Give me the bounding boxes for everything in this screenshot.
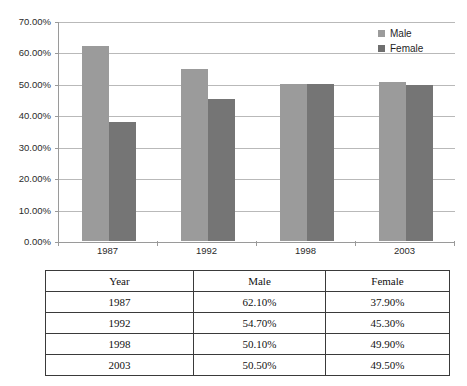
table-row: 199850.10%49.90% (46, 334, 450, 355)
y-tick-mark (55, 148, 59, 149)
legend-swatch-female-icon (378, 45, 385, 52)
table-body: 198762.10%37.90%199254.70%45.30%199850.1… (46, 292, 450, 376)
x-tick-label-1992: 1992 (167, 246, 247, 256)
bar-male-2003 (379, 82, 406, 241)
table-header-year: Year (46, 271, 194, 292)
y-tick-mark (55, 22, 59, 23)
legend-label-male: Male (390, 29, 434, 39)
table-header-female: Female (326, 271, 450, 292)
y-tick-mark (55, 116, 59, 117)
bar-female-1987 (109, 122, 136, 241)
legend-item-female: Female (340, 41, 452, 56)
y-tick-mark (55, 211, 59, 212)
x-tick-label-2003: 2003 (365, 246, 445, 256)
table-cell-female: 45.30% (326, 313, 450, 334)
bar-male-1992 (181, 69, 208, 241)
y-tick-mark (55, 85, 59, 86)
data-table: Year Male Female 198762.10%37.90%199254.… (45, 270, 450, 376)
table-row: 198762.10%37.90% (46, 292, 450, 313)
table-cell-male: 54.70% (194, 313, 326, 334)
bar-male-1998 (280, 84, 307, 241)
table-cell-year: 2003 (46, 355, 194, 376)
bar-male-1987 (82, 46, 109, 241)
gridline (59, 242, 455, 243)
data-table-container: Year Male Female 198762.10%37.90%199254.… (45, 270, 449, 377)
table-cell-female: 37.90% (326, 292, 450, 313)
y-tick-label: 30.00% (0, 143, 51, 153)
table-header-male: Male (194, 271, 326, 292)
bar-group-1992 (181, 21, 235, 241)
table-cell-male: 50.10% (194, 334, 326, 355)
x-tick-label-1998: 1998 (266, 246, 346, 256)
table-cell-male: 62.10% (194, 292, 326, 313)
y-axis-tick-labels: 0.00%10.00%20.00%30.00%40.00%50.00%60.00… (0, 22, 54, 243)
y-tick-mark (55, 53, 59, 54)
x-axis-tick-labels: 1987199219982003 (58, 246, 455, 262)
x-tick-mark (454, 241, 455, 246)
y-tick-mark (55, 179, 59, 180)
y-tick-label: 40.00% (0, 112, 51, 122)
legend-swatch-male-icon (378, 30, 385, 37)
x-tick-mark (355, 241, 356, 246)
y-tick-label: 50.00% (0, 80, 51, 90)
bar-female-1992 (208, 99, 235, 241)
x-tick-mark (256, 241, 257, 246)
table-cell-female: 49.90% (326, 334, 450, 355)
y-tick-label: 20.00% (0, 174, 51, 184)
y-tick-label: 60.00% (0, 49, 51, 59)
x-tick-mark (58, 241, 59, 246)
bar-group-1987 (82, 21, 136, 241)
table-cell-female: 49.50% (326, 355, 450, 376)
legend-item-male: Male (340, 26, 452, 41)
x-tick-label-1987: 1987 (68, 246, 148, 256)
table-header-row: Year Male Female (46, 271, 450, 292)
table-cell-year: 1998 (46, 334, 194, 355)
chart-legend: Male Female (340, 26, 452, 58)
bar-group-1998 (280, 21, 334, 241)
table-cell-year: 1987 (46, 292, 194, 313)
legend-label-female: Female (390, 44, 434, 54)
bar-female-1998 (307, 84, 334, 241)
table-cell-year: 1992 (46, 313, 194, 334)
table-cell-male: 50.50% (194, 355, 326, 376)
table-row: 200350.50%49.50% (46, 355, 450, 376)
y-tick-label: 10.00% (0, 206, 51, 216)
y-tick-label: 0.00% (0, 237, 51, 247)
bar-chart-figure: 0.00%10.00%20.00%30.00%40.00%50.00%60.00… (0, 0, 467, 262)
x-tick-mark (157, 241, 158, 246)
y-tick-label: 70.00% (0, 17, 51, 27)
bar-female-2003 (406, 85, 433, 241)
table-row: 199254.70%45.30% (46, 313, 450, 334)
